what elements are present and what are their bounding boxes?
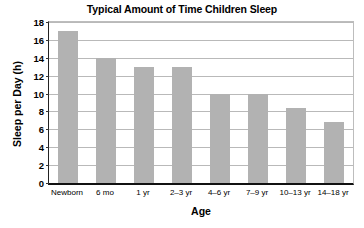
- bar: [324, 122, 344, 183]
- x-axis-title: Age: [48, 205, 354, 217]
- bar-slot: [163, 22, 201, 183]
- y-axis-tick-label: 16: [33, 34, 44, 45]
- bar: [248, 94, 268, 183]
- y-axis-tick-label: 18: [33, 17, 44, 28]
- bar: [172, 67, 192, 183]
- y-axis-tick-label: 10: [33, 88, 44, 99]
- y-axis-tick-label: 12: [33, 70, 44, 81]
- y-axis-title: Sleep per Day (h): [11, 24, 23, 184]
- bar: [286, 108, 306, 183]
- y-axis-tick-label: 14: [33, 52, 44, 63]
- plot-area: 024681012141618: [48, 21, 354, 185]
- y-axis-tick-mark: [46, 183, 49, 184]
- bar-chart-figure: Typical Amount of Time Children Sleep Sl…: [0, 0, 364, 228]
- bar-slot: [277, 22, 315, 183]
- bar: [134, 67, 154, 183]
- y-axis-tick-label: 6: [39, 124, 44, 135]
- x-axis-tick-label: Newborn: [51, 188, 83, 197]
- chart-title: Typical Amount of Time Children Sleep: [0, 3, 364, 15]
- x-axis-tick-label: 2–3 yr: [170, 188, 192, 197]
- y-axis-tick-label: 4: [39, 142, 44, 153]
- x-axis-tick-label: 6 mo: [96, 188, 114, 197]
- x-axis-tick-label: 4–6 yr: [208, 188, 230, 197]
- bar-slot: [201, 22, 239, 183]
- bar-slot: [87, 22, 125, 183]
- bar: [96, 58, 116, 183]
- bar-slot: [315, 22, 353, 183]
- y-axis-tick-label: 2: [39, 160, 44, 171]
- x-axis-tick-label: 1 yr: [136, 188, 149, 197]
- x-axis-tick-label: 7–9 yr: [246, 188, 268, 197]
- y-axis-tick-label: 8: [39, 106, 44, 117]
- bars-group: [49, 22, 353, 183]
- x-axis-tick-label: 14–18 yr: [317, 188, 348, 197]
- bar-slot: [125, 22, 163, 183]
- bar-slot: [49, 22, 87, 183]
- bar: [210, 94, 230, 183]
- bar: [58, 31, 78, 183]
- y-axis-tick-label: 0: [39, 178, 44, 189]
- bar-slot: [239, 22, 277, 183]
- x-axis-tick-label: 10–13 yr: [279, 188, 310, 197]
